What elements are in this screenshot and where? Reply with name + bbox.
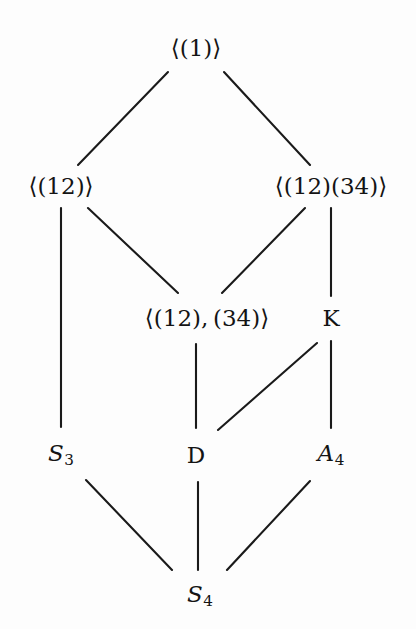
node-s3: S3 xyxy=(48,442,74,468)
node-k: K xyxy=(322,307,339,330)
edge-c1234-to-v4 xyxy=(222,208,305,293)
edge-s3-to-s4 xyxy=(86,480,172,570)
lattice-diagram: ⟨(1)⟩ ⟨(12)⟩ ⟨(12)(34)⟩ ⟨(12), (34)⟩ K S… xyxy=(0,0,416,629)
node-cyclic-12: ⟨(12)⟩ xyxy=(28,175,93,198)
node-cyclic-12-34: ⟨(12)(34)⟩ xyxy=(275,175,387,198)
edge-c12-to-v4 xyxy=(88,208,178,293)
edge-a4-to-s4 xyxy=(227,481,310,570)
edge-k-to-d xyxy=(218,343,317,430)
edge-top-to-c1234 xyxy=(224,72,310,165)
node-s4: S4 xyxy=(187,583,213,609)
node-d: D xyxy=(187,444,205,467)
node-klein-12-34-generated: ⟨(12), (34)⟩ xyxy=(145,307,269,330)
edge-top-to-c12 xyxy=(78,72,168,165)
node-a4: A4 xyxy=(318,442,345,468)
node-trivial-group: ⟨(1)⟩ xyxy=(171,37,222,60)
